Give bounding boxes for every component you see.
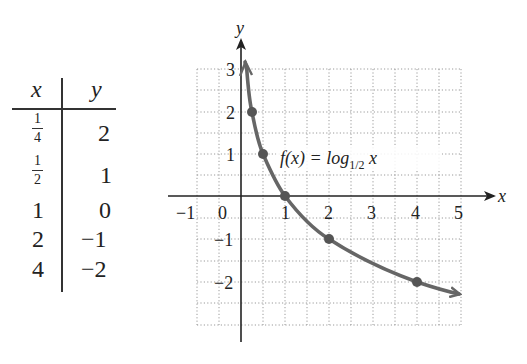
function-arg: x — [368, 148, 377, 168]
point-quarter-2 — [247, 107, 257, 117]
x-tick-label: 3 — [367, 203, 376, 223]
point-2-neg1 — [324, 234, 334, 244]
y-tick-label: 2 — [226, 103, 235, 123]
y-tick-label: −1 — [214, 230, 233, 250]
grid — [197, 69, 461, 325]
x-tick-label: 1 — [281, 203, 290, 223]
x-tick-label: 0 — [218, 203, 227, 223]
point-1-0 — [280, 191, 290, 201]
x-tick-label: 2 — [324, 203, 333, 223]
data-points — [247, 107, 422, 287]
function-curve — [247, 66, 460, 294]
point-4-neg2 — [412, 277, 422, 287]
x-axis-label: x — [497, 186, 506, 206]
x-tick-label: 4 — [411, 203, 420, 223]
function-base: 1/2 — [349, 158, 364, 172]
x-tick-label: 5 — [454, 203, 463, 223]
log-graph: y x −1 0 1 2 3 4 5 3 2 1 −1 −2 f(x) = lo… — [0, 0, 527, 364]
x-tick-label: −1 — [176, 203, 195, 223]
function-label: f(x) = log1/2 x — [276, 146, 442, 172]
function-name: f(x) = log — [280, 148, 349, 169]
point-half-1 — [258, 149, 268, 159]
y-tick-label: 1 — [226, 145, 235, 165]
y-tick-label: 3 — [226, 60, 235, 80]
y-axis-label: y — [234, 18, 244, 38]
y-tick-label: −2 — [214, 273, 233, 293]
